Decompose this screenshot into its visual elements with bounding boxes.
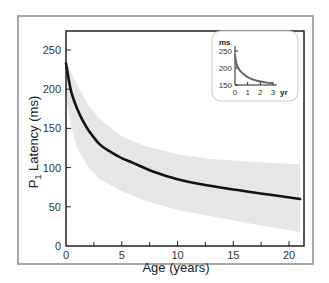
inset-chart: 1502002500123 ms yr [212,31,298,101]
chart: 05010015020025005101520 Age (years) P1 L… [0,0,329,283]
y-tick-label: 200 [43,83,61,95]
x-tick-label: 15 [227,249,239,261]
x-tick-label: 0 [63,249,69,261]
y-axis-title-main: P [26,180,41,189]
y-tick-label: 250 [43,44,61,56]
inset-x-tick-label: 2 [258,88,263,97]
y-axis-title-rest: Latency (ms) [26,96,41,175]
inset-y-tick-label: 250 [219,47,233,56]
x-tick-label: 5 [119,249,125,261]
y-tick-label: 0 [55,240,61,252]
inset-x-tick-label: 1 [245,88,250,97]
inset-y-tick-label: 200 [219,64,233,73]
y-tick-label: 100 [43,162,61,174]
y-tick-label: 50 [49,201,61,213]
x-axis-title: Age (years) [142,260,209,275]
inset-y-unit: ms [219,38,231,47]
y-tick-label: 150 [43,122,61,134]
inset-x-unit: yr [280,88,288,97]
x-tick-label: 20 [283,249,295,261]
inset-y-tick-label: 150 [219,81,233,90]
inset-x-tick-label: 0 [233,88,238,97]
y-axis-title: P1 Latency (ms) [26,96,43,188]
inset-x-tick-label: 3 [271,88,276,97]
